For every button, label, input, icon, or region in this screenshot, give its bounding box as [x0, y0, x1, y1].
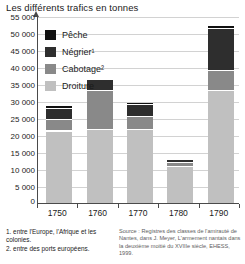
footnote-1: 1. entre l'Europe, l'Afrique et les colo… — [6, 228, 110, 245]
gridline — [38, 17, 239, 18]
y-axis-tick-label: 10 000 — [1, 166, 35, 175]
x-axis-tick-mark — [158, 204, 159, 208]
y-axis-tick-label: 35 000 — [1, 81, 35, 90]
legend-item-peche: Pêche — [45, 26, 155, 43]
bar-stack-1790 — [208, 26, 234, 203]
legend-label-peche: Pêche — [62, 30, 88, 40]
x-axis-tick-mark — [239, 204, 240, 208]
legend-item-cabotage: Cabotage² — [45, 60, 155, 77]
bar-segment-droiture-1750 — [46, 132, 72, 203]
legend-label-cabotage: Cabotage² — [62, 64, 104, 74]
bar-segment-cabotage-1760 — [87, 91, 113, 128]
bar-stack-1780 — [167, 160, 193, 203]
bar-segment-negrier-1770 — [127, 105, 153, 115]
bar-segment-droiture-1770 — [127, 130, 153, 203]
bar-segment-negrier-1750 — [46, 109, 72, 119]
y-axis-tick-label: 25 000 — [1, 115, 35, 124]
y-axis-tick-label: 5 000 — [1, 183, 35, 192]
x-axis-tick-label-1780: 1780 — [160, 208, 196, 218]
page-title: Les différents trafics en tonnes — [6, 2, 138, 13]
x-axis: 17501760177017801790 — [37, 204, 239, 220]
x-axis-tick-mark — [37, 204, 38, 208]
x-axis-tick-mark — [118, 204, 119, 208]
bar-segment-droiture-1780 — [167, 167, 193, 203]
y-axis-tick-label: 20 000 — [1, 132, 35, 141]
legend-item-droiture: Droiture — [45, 77, 155, 94]
footnotes: 1. entre l'Europe, l'Afrique et les colo… — [6, 228, 110, 253]
legend-swatch-peche — [45, 30, 56, 40]
y-axis-tick-label: 40 000 — [1, 64, 35, 73]
bar-segment-cabotage-1770 — [127, 117, 153, 129]
bar-segment-cabotage-1790 — [208, 71, 234, 90]
x-axis-tick-label-1790: 1790 — [201, 208, 237, 218]
legend-swatch-negrier — [45, 47, 56, 57]
bar-stack-1750 — [46, 106, 72, 203]
legend-swatch-droiture — [45, 81, 56, 91]
y-axis-tick-label: 30 000 — [1, 98, 35, 107]
legend-label-droiture: Droiture — [62, 81, 94, 91]
bar-segment-negrier-1790 — [208, 29, 234, 70]
x-axis-tick-label-1750: 1750 — [39, 208, 75, 218]
footnote-2: 2. entre des ports européens. — [6, 245, 110, 253]
y-axis-tick-zero: 0 — [22, 197, 35, 206]
legend-label-negrier: Négrier¹ — [62, 47, 95, 57]
y-axis-tick-label: 15 000 — [1, 149, 35, 158]
bar-segment-droiture-1790 — [208, 91, 234, 203]
x-axis-tick-mark — [199, 204, 200, 208]
y-axis-tick-label: 55 000 — [1, 13, 35, 22]
x-axis-tick-mark — [77, 204, 78, 208]
y-axis-tick-labels: 5 00010 00015 00020 00025 00030 00035 00… — [0, 17, 35, 204]
chart-figure: Les différents trafics en tonnes 5 00010… — [0, 0, 245, 264]
chart-legend: PêcheNégrier¹Cabotage²Droiture — [45, 26, 155, 94]
legend-swatch-cabotage — [45, 64, 56, 74]
bar-stack-1770 — [127, 103, 153, 203]
x-axis-tick-label-1760: 1760 — [80, 208, 116, 218]
y-axis-tick-label: 50 000 — [1, 30, 35, 39]
bar-segment-cabotage-1750 — [46, 120, 72, 130]
y-axis-tick-label: 45 000 — [1, 47, 35, 56]
bar-segment-droiture-1760 — [87, 130, 113, 203]
source-note: Source : Registres des classes de l'amir… — [119, 228, 241, 258]
bar-stack-1760 — [87, 80, 113, 203]
legend-item-negrier: Négrier¹ — [45, 43, 155, 60]
x-axis-tick-label-1770: 1770 — [120, 208, 156, 218]
